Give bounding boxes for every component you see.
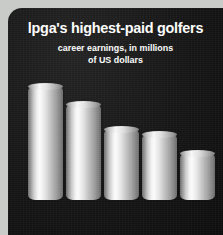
- bar-chart-plot-area: 22.5 Annika Sorenstam 17.5 Karrie Webb 1…: [28, 68, 213, 200]
- chart-subtitle: career earnings, in millions of US dolla…: [13, 42, 217, 66]
- chart-subtitle-line-2: of US dollars: [13, 54, 217, 66]
- bar-juli-inkster: [180, 153, 215, 200]
- bar-cristie-kerr: [142, 134, 177, 200]
- bar-cap-icon: [142, 131, 177, 138]
- bar-value-annika-sorenstam: 22.5: [28, 226, 63, 235]
- chart-card: lpga's highest-paid golfers career earni…: [8, 8, 223, 235]
- bar-cap-icon: [28, 83, 63, 90]
- bar-karrie-webb: [66, 104, 101, 200]
- chart-subtitle-line-1: career earnings, in millions: [13, 42, 217, 54]
- bar-lorena-ochoa: [104, 129, 139, 200]
- bar-annika-sorenstam: [28, 86, 63, 200]
- chart-title: lpga's highest-paid golfers: [16, 20, 216, 36]
- bar-cap-icon: [66, 101, 101, 108]
- bar-cap-icon: [180, 150, 215, 157]
- bar-cap-icon: [104, 126, 139, 133]
